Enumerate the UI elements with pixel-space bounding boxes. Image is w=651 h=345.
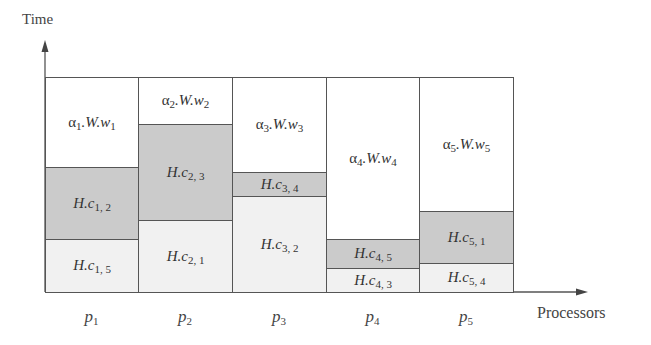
processor-label: p5 [446,307,486,327]
processor-label: p1 [72,307,112,327]
communication-block: H.c4, 3 [326,268,420,293]
communication-block: H.c5, 1 [419,211,514,264]
x-axis-label: Processors [537,304,605,322]
block-label: α3.W.w3 [256,116,303,134]
communication-block: H.c3, 4 [232,172,327,197]
communication-block: H.c2, 3 [138,124,233,221]
block-label: H.c4, 5 [354,245,392,263]
communication-block: H.c5, 4 [419,263,514,293]
communication-block: H.c1, 5 [45,239,139,293]
processor-label: p3 [259,307,299,327]
work-block: α4.W.w4 [326,77,420,240]
work-block: α1.W.w1 [45,77,139,168]
block-label: H.c5, 1 [448,229,486,247]
work-block: α3.W.w3 [232,77,327,173]
block-label: α2.W.w2 [162,92,209,110]
block-label: H.c2, 1 [167,248,205,266]
block-label: α5.W.w5 [443,136,490,154]
communication-block: H.c3, 2 [232,196,327,293]
block-label: H.c1, 5 [73,257,111,275]
y-axis-label: Time [22,11,53,28]
communication-block: H.c2, 1 [138,220,233,293]
work-block: α5.W.w5 [419,77,514,212]
block-label: H.c3, 4 [261,176,299,194]
block-label: α4.W.w4 [349,150,396,168]
communication-block: H.c4, 5 [326,239,420,269]
x-axis-arrow-icon [576,289,588,296]
block-label: H.c1, 2 [73,195,111,213]
block-label: H.c3, 2 [261,236,299,254]
block-label: H.c5, 4 [448,269,486,287]
work-block: α2.W.w2 [138,77,233,125]
processor-label: p4 [353,307,393,327]
block-label: H.c2, 3 [167,164,205,182]
block-label: H.c4, 3 [354,272,392,290]
block-label: α1.W.w1 [68,114,115,132]
communication-block: H.c1, 2 [45,167,139,240]
processor-label: p2 [165,307,205,327]
y-axis-arrow-icon [42,40,49,52]
